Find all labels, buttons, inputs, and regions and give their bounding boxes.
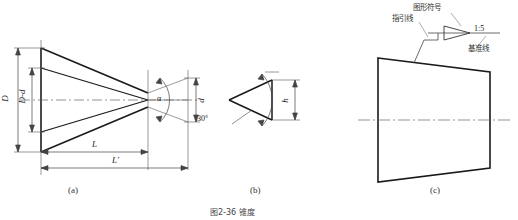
ratio-label: 1:5 [474,25,484,33]
figure-root: D D-d d L L' α (a) 30° [0,0,518,220]
label-graphic-symbol: 图形符号 [413,4,441,12]
subfigure-label-c: (c) [430,186,440,195]
leader-line-c [414,33,438,63]
pointer-to-symbol [451,13,461,26]
label-leader-line: 指引线 [392,15,413,23]
diagram-c-graphics [0,0,518,220]
label-datum-line: 基准线 [468,45,489,53]
pointer-to-leader [419,22,428,37]
figure-caption: 图2-36 锥度 [210,209,255,217]
